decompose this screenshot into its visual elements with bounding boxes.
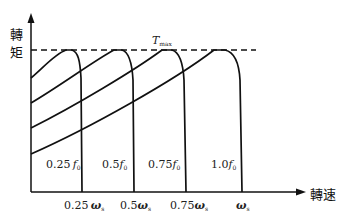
y-axis-arrow-icon xyxy=(28,13,35,23)
x-axis-arrow-icon xyxy=(296,189,306,196)
y-axis-label-bottom: 矩 xyxy=(10,42,23,61)
diagram-canvas xyxy=(0,0,343,219)
curve-label-1.0f0: 1.0f0 xyxy=(211,158,236,171)
curve-label-0.5f0: 0.5f0 xyxy=(102,158,127,171)
x-tick-0.75ws: 0.75ωs xyxy=(170,199,208,212)
x-tick-0.5ws: 0.5ωs xyxy=(120,199,151,212)
x-tick-0.25ws: 0.25 ωs xyxy=(64,199,104,212)
tmax-label: Tmax xyxy=(152,34,172,47)
x-axis-label: 轉速 xyxy=(310,184,336,203)
x-tick-ws: ωs xyxy=(236,199,250,212)
curve-label-0.75f0: 0.75f0 xyxy=(148,158,180,171)
torque-speed-diagram: 轉 矩 轉速 Tmax 0.25 f0 0.5f0 0.75f0 1.0f0 0… xyxy=(0,0,343,219)
y-axis-label-top: 轉 xyxy=(10,24,23,43)
curve-label-0.25f0: 0.25 f0 xyxy=(46,158,81,171)
